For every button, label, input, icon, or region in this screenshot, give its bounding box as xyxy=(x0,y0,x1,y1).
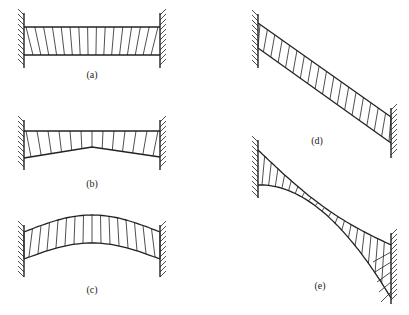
fixed-support-icon xyxy=(160,9,166,68)
panel-a: (a) xyxy=(18,9,166,81)
fixed-support-icon xyxy=(160,116,166,170)
panel-c: (c) xyxy=(18,215,166,296)
panel-b: (b) xyxy=(18,116,166,190)
fixed-support-icon xyxy=(18,116,24,170)
structural-diagram: (a)(b)(c)(d)(e) xyxy=(0,0,409,315)
fixed-support-icon xyxy=(160,221,166,277)
fixed-support-icon xyxy=(252,10,258,68)
panel-d: (d) xyxy=(252,10,397,158)
fixed-support-icon xyxy=(18,9,24,68)
fixed-support-icon xyxy=(252,136,258,198)
panel-label: (a) xyxy=(86,69,97,81)
panel-label: (c) xyxy=(86,284,97,296)
panel-label: (e) xyxy=(314,280,325,292)
panel-e: (e) xyxy=(252,136,397,304)
fixed-support-icon xyxy=(18,221,24,277)
fixed-support-icon xyxy=(391,229,397,304)
panel-label: (d) xyxy=(311,135,323,147)
panel-label: (b) xyxy=(86,178,98,190)
fixed-support-icon xyxy=(391,104,397,158)
